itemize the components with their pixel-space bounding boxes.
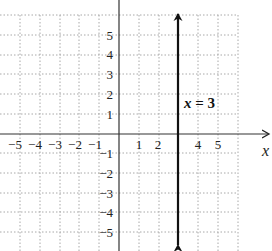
x-tick-label: 1 bbox=[136, 137, 143, 152]
x-tick-labels: −5 −4 −3 −2 −1 1 2 4 5 bbox=[8, 137, 221, 152]
x-axis-label: x bbox=[261, 142, 269, 159]
y-tick-label: 2 bbox=[107, 87, 114, 102]
y-tick-label: −1 bbox=[99, 146, 113, 161]
y-tick-label: 1 bbox=[107, 107, 114, 122]
line-equation-label: x = 3 bbox=[183, 95, 215, 111]
y-tick-label: 5 bbox=[107, 28, 114, 43]
x-tick-label: 5 bbox=[215, 137, 222, 152]
coordinate-plane: x −5 −4 −3 −2 −1 1 2 4 5 5 4 3 2 1 −1 −2… bbox=[0, 0, 272, 251]
y-tick-label: 3 bbox=[107, 67, 114, 82]
y-tick-label: −2 bbox=[99, 166, 113, 181]
y-tick-label: −3 bbox=[99, 186, 113, 201]
y-tick-label: 4 bbox=[107, 47, 114, 62]
x-tick-label: 4 bbox=[195, 137, 202, 152]
x-tick-label: −4 bbox=[28, 137, 42, 152]
y-tick-label: −4 bbox=[99, 205, 113, 220]
x-tick-label: −5 bbox=[8, 137, 22, 152]
y-tick-label: −5 bbox=[99, 225, 113, 240]
x-tick-label: −2 bbox=[68, 137, 82, 152]
x-tick-label: 2 bbox=[155, 137, 162, 152]
x-tick-label: −3 bbox=[48, 137, 62, 152]
